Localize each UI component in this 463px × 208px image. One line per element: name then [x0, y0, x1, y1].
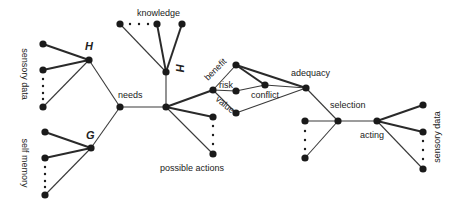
edge	[45, 132, 91, 148]
edge	[305, 121, 338, 158]
edge	[45, 148, 91, 158]
adequacy-label: adequacy	[291, 68, 331, 78]
knowledge-label: knowledge	[137, 8, 180, 18]
memory-node	[41, 128, 48, 135]
cognitive-network-diagram: sensory data self memory H G needs knowl…	[0, 0, 463, 208]
g-node	[87, 144, 94, 151]
action-node	[209, 150, 216, 157]
possible-actions-label: possible actions	[160, 163, 225, 173]
edge	[43, 44, 89, 60]
edge	[166, 107, 213, 154]
h-knowledge-label: H	[174, 64, 186, 73]
acting-label: acting	[360, 130, 384, 140]
selection-input-node	[301, 117, 308, 124]
needs-node	[116, 103, 123, 110]
h-node	[85, 56, 92, 63]
edge	[89, 60, 120, 107]
acting-node	[373, 117, 380, 124]
memory-node	[41, 154, 48, 161]
conflict-label: conflict	[251, 90, 280, 100]
conflict-node	[261, 81, 268, 88]
benefit-node	[232, 61, 239, 68]
memory-node	[41, 191, 48, 198]
risk-label: risk	[219, 80, 233, 90]
g-label: G	[86, 129, 95, 141]
edge	[166, 90, 213, 107]
edge	[45, 148, 91, 195]
evaluation-node	[209, 86, 216, 93]
edge	[91, 107, 120, 148]
knowledge-node	[178, 20, 185, 27]
self-memory-label: self memory	[20, 138, 30, 188]
edge	[166, 107, 213, 117]
sensory-out-node	[419, 165, 426, 172]
knowledge-node	[116, 20, 123, 27]
sensory-data-right-label: sensory data	[432, 111, 442, 163]
h-label: H	[85, 40, 94, 52]
edge	[236, 65, 265, 85]
hub-node	[162, 103, 169, 110]
selection-label: selection	[330, 100, 366, 110]
edge	[43, 60, 89, 107]
sensory-node	[39, 66, 46, 73]
risk-node	[232, 87, 239, 94]
sensory-out-node	[419, 128, 426, 135]
selection-node	[334, 117, 341, 124]
sensory-node	[39, 40, 46, 47]
edge	[43, 60, 89, 70]
labels: sensory data self memory H G needs knowl…	[20, 8, 442, 188]
sensory-data-left-label: sensory data	[20, 48, 30, 100]
h-knowledge-node	[162, 68, 169, 75]
knowledge-node	[153, 20, 160, 27]
selection-input-node	[301, 154, 308, 161]
sensory-out-node	[419, 101, 426, 108]
adequacy-node	[302, 84, 309, 91]
action-node	[209, 113, 216, 120]
sensory-node	[39, 103, 46, 110]
benefit-label: benefit	[202, 56, 229, 83]
needs-label: needs	[118, 90, 143, 100]
edge	[377, 105, 423, 121]
edge	[377, 121, 423, 169]
